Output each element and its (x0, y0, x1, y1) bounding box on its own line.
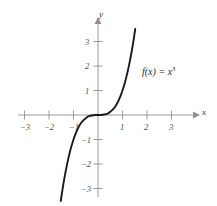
function-annotation-label: f(x) = x3 (142, 66, 175, 77)
function-graph-figure: −3 −2 −1 1 2 3 3 2 1 −1 −2 −3 y x f(x) =… (0, 0, 217, 206)
x-tick-label-3: 3 (169, 123, 173, 132)
y-axis-label: y (99, 10, 103, 19)
function-annotation-base: f(x) = x (142, 66, 172, 77)
x-tick-label--3: −3 (20, 123, 30, 132)
plot-canvas (0, 0, 217, 206)
y-tick-label--1: −1 (81, 136, 91, 145)
y-tick-label-3: 3 (85, 38, 89, 47)
function-annotation-exponent: 3 (172, 65, 175, 72)
x-tick-label-2: 2 (144, 123, 148, 132)
y-tick-label-2: 2 (85, 62, 89, 71)
x-axis-label: x (202, 108, 206, 117)
x-tick-label--2: −2 (44, 123, 54, 132)
y-tick-label--3: −3 (81, 185, 91, 194)
y-tick-label-1: 1 (85, 87, 89, 96)
x-tick-label-1: 1 (120, 123, 124, 132)
x-axis-arrow-icon (193, 112, 200, 119)
x-tick-label--1: −1 (69, 123, 79, 132)
y-tick-label--2: −2 (81, 160, 91, 169)
